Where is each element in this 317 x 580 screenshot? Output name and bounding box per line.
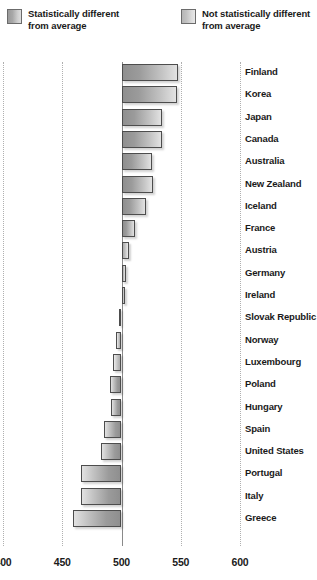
country-label: Poland [245, 378, 276, 389]
country-label: Ireland [245, 289, 275, 300]
legend-item-statistically-different: Statistically different from average [7, 8, 119, 31]
chart-row: Greece [0, 508, 317, 530]
chart-row: Canada [0, 129, 317, 151]
chart-bar[interactable] [81, 488, 121, 505]
country-label: Canada [245, 133, 278, 144]
chart-legend: Statistically different from average Not… [0, 0, 317, 44]
country-label: Norway [245, 334, 278, 345]
chart-row: Slovak Republic [0, 307, 317, 329]
chart-plot-area: FinlandKoreaJapanCanadaAustraliaNew Zeal… [0, 44, 317, 552]
chart-bar[interactable] [122, 131, 162, 148]
country-label: Slovak Republic [245, 311, 316, 322]
chart-row: Luxembourg [0, 352, 317, 374]
legend-label-line1: Not statistically different [202, 8, 310, 19]
chart-bar[interactable] [122, 198, 147, 215]
chart-bar[interactable] [122, 109, 162, 126]
chart-row: Portugal [0, 463, 317, 485]
country-label: Australia [245, 155, 284, 166]
x-axis-tick-label: 450 [54, 556, 71, 568]
country-label: Austria [245, 244, 277, 255]
country-label: New Zealand [245, 178, 301, 189]
country-label: Italy [245, 490, 263, 501]
chart-bar[interactable] [81, 465, 121, 482]
chart-row: Iceland [0, 196, 317, 218]
not-significant-swatch-icon [181, 9, 196, 24]
country-label: Iceland [245, 200, 277, 211]
chart-x-axis: 400450500550600 [0, 552, 317, 580]
chart-row: Austria [0, 240, 317, 262]
country-label: Portugal [245, 467, 282, 478]
chart-row: Poland [0, 374, 317, 396]
legend-item-not-statistically-different: Not statistically different from average [181, 8, 310, 31]
chart-bar[interactable] [122, 86, 178, 103]
chart-row: Spain [0, 419, 317, 441]
chart-row: Italy [0, 486, 317, 508]
chart-bar[interactable] [122, 265, 127, 282]
chart-row: Japan [0, 107, 317, 129]
significant-swatch-icon [7, 9, 22, 24]
country-label: Hungary [245, 401, 282, 412]
chart-bar[interactable] [104, 421, 122, 438]
country-label: United States [245, 445, 304, 456]
country-label: Finland [245, 66, 278, 77]
legend-label-not-statistically-different: Not statistically different from average [202, 8, 310, 31]
chart-bar[interactable] [122, 220, 135, 237]
chart-row: Korea [0, 84, 317, 106]
chart-row: Hungary [0, 397, 317, 419]
chart-row: Australia [0, 151, 317, 173]
chart-bar[interactable] [122, 242, 129, 259]
legend-label-line2: from average [28, 20, 86, 31]
chart-bar[interactable] [73, 510, 122, 527]
country-label: France [245, 222, 275, 233]
chart-bar[interactable] [122, 64, 179, 81]
chart-bar[interactable] [122, 176, 154, 193]
chart-bar[interactable] [101, 443, 121, 460]
chart-row: Germany [0, 263, 317, 285]
x-axis-tick-label: 600 [232, 556, 249, 568]
legend-label-line1: Statistically different [28, 8, 119, 19]
legend-label-statistically-different: Statistically different from average [28, 8, 119, 31]
chart-row: Finland [0, 62, 317, 84]
country-label: Germany [245, 267, 285, 278]
chart-bar[interactable] [113, 354, 121, 371]
country-label: Japan [245, 111, 272, 122]
x-axis-tick-label: 500 [113, 556, 130, 568]
chart-row: United States [0, 441, 317, 463]
legend-label-line2: from average [202, 20, 260, 31]
chart-row: New Zealand [0, 174, 317, 196]
x-axis-tick-label: 400 [0, 556, 11, 568]
chart-bar[interactable] [110, 376, 122, 393]
chart-row: Norway [0, 330, 317, 352]
chart-row: France [0, 218, 317, 240]
country-label: Luxembourg [245, 356, 301, 367]
chart-row: Ireland [0, 285, 317, 307]
chart-bar[interactable] [122, 153, 153, 170]
country-label: Spain [245, 423, 270, 434]
chart-bar[interactable] [122, 287, 126, 304]
country-label: Greece [245, 512, 276, 523]
chart-bar[interactable] [111, 399, 122, 416]
country-label: Korea [245, 88, 271, 99]
chart-bar[interactable] [116, 332, 122, 349]
chart-bar[interactable] [119, 309, 121, 326]
x-axis-tick-label: 550 [172, 556, 189, 568]
